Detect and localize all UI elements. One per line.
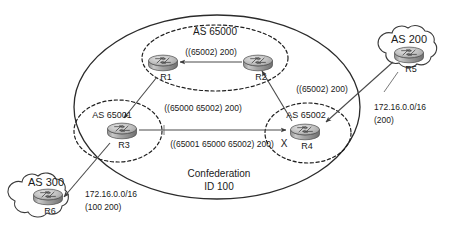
confederation-label-line2: ID 100 — [204, 181, 234, 192]
path-label-r4-to-r2: ((65002) 200) — [296, 84, 348, 94]
as-200-prefix: 172.16.0.0/16 — [374, 102, 426, 112]
confederation-label-line1: Confederation — [188, 168, 251, 179]
router-r4-label: R4 — [301, 141, 313, 151]
router-r3[interactable] — [108, 123, 137, 139]
as-200-annotation-leader — [384, 72, 398, 92]
blocked-path-marker: X — [281, 138, 288, 149]
router-r4[interactable] — [291, 124, 320, 140]
router-r5[interactable] — [395, 47, 424, 63]
router-r5-label: R5 — [405, 64, 417, 74]
path-label-r1-to-r3: ((65000 65002) 200) — [164, 103, 242, 113]
as-200-aspath: (200) — [374, 115, 394, 125]
as-65001-label: AS 65001 — [92, 110, 132, 120]
router-r6[interactable] — [34, 189, 63, 205]
as-300-label: AS 300 — [28, 176, 64, 188]
path-label-r3-to-r4: ((65001 65000 65002) 200) — [170, 139, 274, 149]
router-r1[interactable] — [149, 55, 178, 71]
diagram-canvas: AS 65000 AS 65001 AS 65002 AS 200 AS 300… — [0, 0, 453, 244]
router-r6-label: R6 — [44, 206, 56, 216]
network-diagram: AS 65000 AS 65001 AS 65002 AS 200 AS 300… — [0, 0, 453, 244]
as-65002-label: AS 65002 — [286, 110, 326, 120]
router-r2-label: R2 — [255, 72, 267, 82]
as-300-aspath: (100 200) — [85, 202, 122, 212]
router-r3-label: R3 — [118, 140, 130, 150]
path-label-r2-to-r1: ((65002) 200) — [185, 47, 237, 57]
as-200-label: AS 200 — [391, 33, 427, 45]
router-r2[interactable] — [244, 55, 273, 71]
as-300-prefix: 172.16.0.0/16 — [85, 189, 137, 199]
router-r1-label: R1 — [160, 72, 172, 82]
as-65000-label: AS 65000 — [193, 26, 237, 37]
